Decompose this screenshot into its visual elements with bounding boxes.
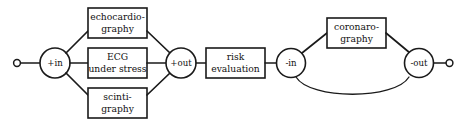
edge-in-minus-to-coronarography: [302, 33, 327, 53]
box-echocardiography-line2: graphy: [101, 23, 135, 34]
box-coronarography-line1: coronaro-: [334, 21, 379, 32]
box-coronarography-line2: graphy: [340, 33, 374, 44]
edge-in-plus-to-scinti: [66, 73, 88, 95]
edge-in-minus-bypass-to-out-minus: [296, 77, 409, 94]
node-in-minus-label: -in: [285, 58, 297, 68]
box-echocardiography-line1: echocardio-: [90, 11, 145, 22]
box-scintigraphy-line1: scinti-: [103, 91, 131, 102]
box-ecg-line2: under stress: [88, 63, 146, 74]
diagram-canvas: +in echocardio- graphy ECG under stress …: [0, 0, 466, 126]
node-out-plus-label: +out: [170, 58, 192, 68]
start-terminal[interactable]: [14, 60, 21, 67]
box-risk-line1: risk: [227, 51, 245, 62]
edge-echo-to-out-plus: [147, 31, 170, 53]
box-risk-line2: evaluation: [211, 63, 260, 74]
node-out-minus-label: -out: [410, 58, 428, 68]
edge-in-plus-to-echo: [66, 31, 88, 53]
workflow-diagram: +in echocardio- graphy ECG under stress …: [0, 0, 466, 126]
edge-scinti-to-out-plus: [147, 73, 170, 95]
box-ecg-line1: ECG: [107, 51, 128, 62]
end-terminal[interactable]: [446, 60, 453, 67]
edge-coronarography-to-out-minus: [386, 33, 410, 53]
box-scintigraphy-line2: graphy: [101, 103, 135, 114]
node-in-plus-label: +in: [47, 58, 63, 68]
